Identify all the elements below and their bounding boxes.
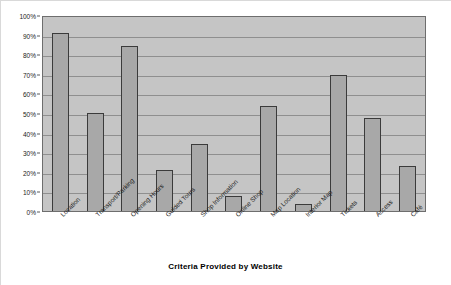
bar: [364, 118, 381, 211]
y-tick-mark-60: [37, 94, 40, 95]
y-tick-mark-40: [37, 133, 40, 134]
x-axis-category-labels: LocationTransport/ParkingOpening HoursGu…: [42, 213, 426, 261]
x-axis-title: Criteria Provided by Website: [0, 262, 451, 271]
y-tick-mark-50: [37, 114, 40, 115]
y-tick-mark-90: [37, 35, 40, 36]
y-tick-label-80: 80%: [23, 52, 36, 59]
y-tick-mark-70: [37, 74, 40, 75]
y-tick-label-100: 100%: [19, 13, 36, 20]
y-tick-label-10: 10%: [23, 189, 36, 196]
bar: [87, 113, 104, 211]
bar: [52, 33, 69, 211]
y-tick-mark-10: [37, 192, 40, 193]
y-tick-label-20: 20%: [23, 169, 36, 176]
y-tick-label-90: 90%: [23, 32, 36, 39]
y-axis: 0%10%20%30%40%50%60%70%80%90%100%: [0, 16, 40, 212]
y-tick-mark-100: [37, 16, 40, 17]
bar: [330, 75, 347, 211]
bar-chart-figure: 0%10%20%30%40%50%60%70%80%90%100% Locati…: [0, 0, 451, 285]
y-tick-mark-0: [37, 212, 40, 213]
y-tick-label-70: 70%: [23, 71, 36, 78]
bar: [191, 144, 208, 211]
y-tick-label-30: 30%: [23, 150, 36, 157]
y-tick-mark-30: [37, 153, 40, 154]
y-tick-label-40: 40%: [23, 130, 36, 137]
y-tick-mark-80: [37, 55, 40, 56]
y-tick-mark-20: [37, 172, 40, 173]
bar: [399, 166, 416, 211]
y-tick-label-60: 60%: [23, 91, 36, 98]
y-tick-label-0: 0%: [27, 209, 36, 216]
bar: [260, 106, 277, 211]
y-tick-label-50: 50%: [23, 111, 36, 118]
